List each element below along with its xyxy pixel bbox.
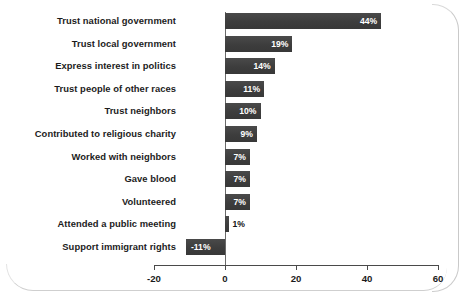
bar: 7% bbox=[225, 171, 250, 187]
bar: 9% bbox=[225, 126, 257, 142]
bar-value-label: 10% bbox=[239, 106, 256, 116]
x-axis-tick bbox=[154, 265, 155, 270]
category-label: Volunteered bbox=[0, 197, 176, 207]
bar-value-label: -11% bbox=[191, 242, 211, 252]
category-label: Contributed to religious charity bbox=[0, 129, 176, 139]
bar-value-label: 9% bbox=[241, 129, 253, 139]
chart-figure: -200204060Trust national government44%Tr… bbox=[0, 0, 464, 307]
x-axis-tick-label: 40 bbox=[347, 273, 387, 284]
bar: 44% bbox=[225, 13, 381, 29]
x-axis-tick bbox=[438, 265, 439, 270]
bar-value-label: 19% bbox=[271, 39, 288, 49]
bar-value-label: 11% bbox=[243, 84, 260, 94]
x-axis-tick bbox=[296, 265, 297, 270]
category-label: Trust national government bbox=[0, 16, 176, 26]
bar: 10% bbox=[225, 103, 261, 119]
bar: 7% bbox=[225, 149, 250, 165]
bar: 11% bbox=[225, 81, 264, 97]
bar: 19% bbox=[225, 36, 292, 52]
x-axis-tick-label: 0 bbox=[205, 273, 245, 284]
category-label: Worked with neighbors bbox=[0, 152, 176, 162]
plot-area: -200204060Trust national government44%Tr… bbox=[0, 0, 464, 307]
category-label: Trust neighbors bbox=[0, 106, 176, 116]
x-axis-tick-label: -20 bbox=[134, 273, 174, 284]
x-axis-tick-label: 60 bbox=[418, 273, 458, 284]
x-axis-tick bbox=[225, 265, 226, 270]
bar-value-label: 1% bbox=[233, 219, 245, 229]
category-label: Express interest in politics bbox=[0, 61, 176, 71]
bar-value-label: 14% bbox=[253, 61, 270, 71]
bar-value-label: 7% bbox=[233, 152, 245, 162]
category-label: Trust local government bbox=[0, 39, 176, 49]
category-label: Gave blood bbox=[0, 174, 176, 184]
bar-value-label: 44% bbox=[360, 16, 377, 26]
x-axis-tick-label: 20 bbox=[276, 273, 316, 284]
bar-value-label: 7% bbox=[233, 197, 245, 207]
bar: 14% bbox=[225, 58, 275, 74]
category-label: Attended a public meeting bbox=[0, 219, 176, 229]
category-label: Support immigrant rights bbox=[0, 242, 176, 252]
bar: -11% bbox=[186, 239, 225, 255]
bar: 7% bbox=[225, 194, 250, 210]
bar: 1% bbox=[225, 216, 229, 232]
x-axis-tick bbox=[367, 265, 368, 270]
category-label: Trust people of other races bbox=[0, 84, 176, 94]
bar-value-label: 7% bbox=[233, 174, 245, 184]
